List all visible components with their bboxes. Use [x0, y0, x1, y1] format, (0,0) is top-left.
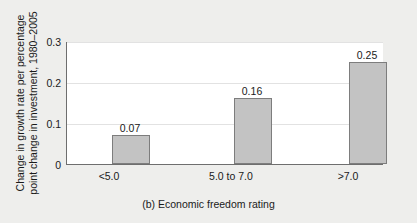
bar-gt-7.0[interactable] [349, 62, 387, 165]
figure: Change in growth rate per percentage poi… [0, 0, 417, 223]
bar-value-label-lt-5.0: 0.07 [100, 122, 160, 134]
y-tick-label-0.1: 0.1 [21, 118, 61, 130]
bar-5.0-to-7.0[interactable] [234, 98, 272, 164]
y-tick-label-0.2: 0.2 [21, 77, 61, 89]
bar-value-label-gt-7.0: 0.25 [337, 49, 397, 61]
figure-caption: (b) Economic freedom rating [0, 198, 417, 210]
bar-lt-5.0[interactable] [112, 135, 150, 164]
plot-area [66, 42, 383, 165]
y-tick-label-0.3: 0.3 [21, 36, 61, 48]
gridline-0.2 [67, 83, 383, 84]
x-tick-label-5.0-to-7.0: 5.0 to 7.0 [193, 170, 269, 182]
gridline-0.3 [67, 42, 383, 43]
y-tick-label-0: 0 [21, 159, 61, 171]
x-tick-label-gt-7.0: >7.0 [310, 170, 386, 182]
bar-value-label-5.0-to-7.0: 0.16 [222, 85, 282, 97]
x-tick-label-lt-5.0: <5.0 [71, 170, 147, 182]
